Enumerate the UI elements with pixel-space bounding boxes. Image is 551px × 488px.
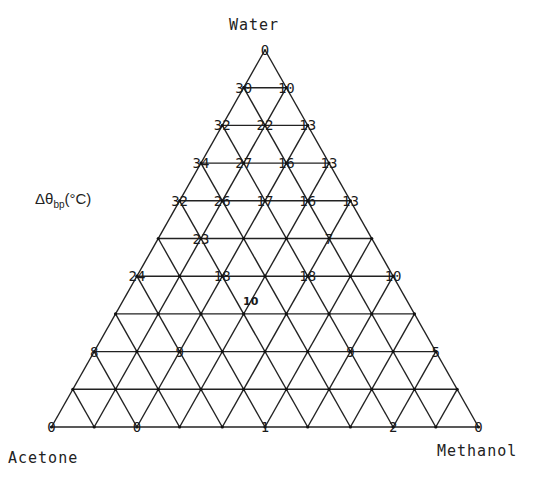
axis-title-subscript: bp: [53, 199, 64, 210]
axis-title-suffix: (°C): [65, 190, 92, 207]
cropped-caption: [150, 478, 550, 488]
node-value-label: 0: [47, 419, 55, 435]
grid-node: [349, 275, 352, 278]
grid-node: [71, 388, 74, 391]
grid-node: [285, 312, 288, 315]
grid-node: [263, 275, 266, 278]
grid-node: [178, 425, 181, 428]
grid-node: [370, 312, 373, 315]
grid-node: [456, 388, 459, 391]
grid-node: [349, 425, 352, 428]
grid-node: [178, 275, 181, 278]
grid-node: [199, 312, 202, 315]
grid-node: [221, 350, 224, 353]
node-value-label: 32: [171, 193, 188, 209]
grid-node: [114, 388, 117, 391]
grid-node: [306, 350, 309, 353]
ternary-diagram: 0301032221334271613322617161323724181810…: [0, 0, 551, 488]
node-value-label: 0: [261, 42, 269, 58]
grid-node: [93, 425, 96, 428]
grid-line: [265, 239, 372, 428]
node-value-label: 16: [278, 155, 295, 171]
grid-node: [199, 388, 202, 391]
node-value-label: 24: [128, 268, 145, 284]
node-value-label: 22: [257, 117, 274, 133]
grid-node: [285, 237, 288, 240]
grid-node: [370, 388, 373, 391]
node-value-label: 5: [432, 344, 440, 360]
node-value-label: 34: [193, 155, 210, 171]
grid-node: [285, 388, 288, 391]
grid-node: [327, 312, 330, 315]
grid-node: [392, 350, 395, 353]
grid-line: [73, 389, 94, 427]
node-value-label: 2: [389, 419, 397, 435]
node-value-label: 7: [325, 231, 333, 247]
vertex-label-water: Water: [229, 16, 279, 34]
grid-line: [158, 239, 265, 428]
grid-node-dots: [50, 86, 480, 429]
grid-node: [327, 388, 330, 391]
vertex-label-acetone: Acetone: [8, 449, 78, 467]
node-value-label: 16: [299, 193, 316, 209]
grid-node: [306, 425, 309, 428]
grid-node: [157, 388, 160, 391]
node-value-label: 1: [261, 419, 269, 435]
node-value-label: 18: [214, 268, 231, 284]
grid-node: [242, 312, 245, 315]
grid-node: [135, 350, 138, 353]
node-value-label: 26: [214, 193, 231, 209]
node-value-label: 27: [235, 155, 252, 171]
axis-title-delta-theta-bp: Δθbp(°C): [35, 190, 91, 210]
node-value-label: 10: [385, 268, 402, 284]
grid-node: [413, 388, 416, 391]
node-value-label: 13: [299, 117, 316, 133]
node-value-label: 0: [133, 419, 141, 435]
grid-line: [116, 314, 180, 427]
grid-node: [114, 312, 117, 315]
axis-title-prefix: Δθ: [35, 190, 53, 207]
node-value-label: 30: [235, 80, 252, 96]
grid-node: [263, 350, 266, 353]
grid-line: [94, 88, 286, 427]
triangular-grid: [52, 50, 479, 427]
grid-node: [242, 388, 245, 391]
grid-node: [157, 312, 160, 315]
grid-node: [370, 237, 373, 240]
grid-line: [350, 314, 414, 427]
node-value-label: 9: [175, 344, 183, 360]
node-value-label: 13: [342, 193, 359, 209]
node-value-label: 9: [346, 344, 354, 360]
node-value-label: 18: [299, 268, 316, 284]
node-value-label: 32: [214, 117, 231, 133]
grid-node: [157, 237, 160, 240]
node-value-label: 10: [278, 80, 295, 96]
grid-node: [221, 425, 224, 428]
grid-line: [244, 88, 436, 427]
interior-value-label: 10: [243, 295, 259, 308]
node-value-label: 23: [193, 231, 210, 247]
grid-node: [242, 237, 245, 240]
node-value-label: 17: [257, 193, 274, 209]
vertex-label-methanol: Methanol: [437, 442, 517, 460]
node-value-label: 0: [474, 419, 482, 435]
grid-node: [413, 312, 416, 315]
grid-node: [434, 425, 437, 428]
grid-line: [436, 389, 457, 427]
node-value-label: 8: [90, 344, 98, 360]
node-value-label: 13: [321, 155, 338, 171]
